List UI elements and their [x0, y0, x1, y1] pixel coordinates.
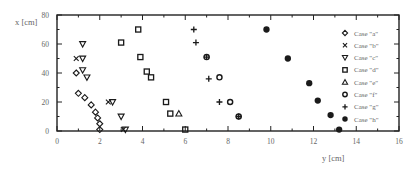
circle-filled-marker-icon: [342, 116, 347, 121]
x-tick-label: 4: [141, 137, 145, 146]
legend-label: Case "b": [354, 42, 379, 50]
legend-item: Case "h": [342, 116, 378, 124]
series-circle-filled: [263, 26, 342, 132]
x-tick-label: 0: [55, 137, 59, 146]
triangle-down-marker-icon: [80, 56, 86, 61]
legend-label: Case "f": [354, 91, 378, 99]
legend-item: Case "f": [343, 91, 378, 99]
circle-open-marker-icon: [217, 75, 222, 80]
plus-marker-icon: [193, 40, 199, 46]
series-triangle-up: [176, 111, 182, 116]
x-tick-label: 16: [395, 137, 403, 146]
diamond-marker-icon: [73, 70, 79, 76]
legend-label: Case "g": [354, 103, 379, 111]
circle-filled-marker-icon: [306, 80, 312, 86]
legend: Case "a"Case "b"Case "c"Case "d"Case "e"…: [342, 30, 378, 124]
x-tick-label: 2: [98, 137, 102, 146]
circle-open-marker-icon: [343, 92, 347, 96]
diamond-marker-icon: [75, 90, 81, 96]
y-tick-label: 80: [42, 11, 50, 20]
square-marker-icon: [168, 111, 173, 116]
square-marker-icon: [136, 27, 141, 32]
series-circle-open: [204, 55, 241, 120]
circle-filled-marker-icon: [315, 97, 321, 103]
circle-filled-marker-icon: [263, 26, 269, 32]
legend-item: Case "a": [342, 30, 378, 38]
circle-open-marker-icon: [228, 99, 233, 104]
triangle-down-marker-icon: [80, 42, 86, 47]
legend-item: Case "d": [343, 66, 379, 74]
legend-item: Case "g": [342, 103, 378, 111]
series-triangle-down: [80, 42, 129, 133]
plot-svg: 0246810121416020406080 x [cm] y [cm] Cas…: [0, 0, 420, 170]
series-plus: [191, 27, 242, 120]
x-marker-icon: [74, 56, 79, 61]
legend-item: Case "c": [342, 54, 378, 62]
scatter-chart: 0246810121416020406080 x [cm] y [cm] Cas…: [0, 0, 420, 170]
square-marker-icon: [119, 40, 124, 45]
diamond-marker-icon: [88, 102, 94, 108]
square-marker-icon: [149, 75, 154, 80]
legend-label: Case "e": [354, 79, 378, 87]
triangle-down-marker-icon: [80, 68, 86, 73]
circle-filled-marker-icon: [336, 126, 342, 132]
legend-item: Case "b": [343, 42, 379, 50]
legend-label: Case "c": [354, 54, 378, 62]
plus-marker-icon: [191, 27, 197, 33]
diamond-marker-icon: [342, 30, 347, 35]
square-marker-icon: [343, 68, 347, 72]
x-marker-icon: [343, 43, 347, 47]
x-tick-label: 6: [183, 137, 187, 146]
square-marker-icon: [144, 69, 149, 74]
legend-label: Case "h": [354, 116, 379, 124]
square-marker-icon: [163, 99, 168, 104]
legend-item: Case "e": [342, 79, 378, 87]
plus-marker-icon: [206, 76, 212, 82]
plus-marker-icon: [216, 99, 222, 105]
x-tick-label: 12: [310, 137, 318, 146]
triangle-down-marker-icon: [118, 114, 124, 119]
y-axis-label: x [cm]: [15, 17, 38, 27]
x-tick-label: 8: [226, 137, 230, 146]
legend-label: Case "d": [354, 66, 379, 74]
square-marker-icon: [138, 55, 143, 60]
circle-filled-marker-icon: [327, 112, 333, 118]
legend-label: Case "a": [354, 30, 378, 38]
triangle-down-marker-icon: [342, 56, 347, 61]
y-tick-label: 60: [42, 40, 50, 49]
triangle-down-marker-icon: [84, 75, 90, 80]
triangle-up-marker-icon: [176, 111, 182, 116]
x-tick-label: 10: [267, 137, 275, 146]
plus-marker-icon: [342, 104, 347, 109]
y-tick-label: 20: [42, 98, 50, 107]
x-axis-label: y [cm]: [322, 153, 345, 163]
y-tick-label: 0: [45, 127, 49, 136]
circle-filled-marker-icon: [285, 55, 291, 61]
diamond-marker-icon: [82, 95, 88, 101]
data-points: [73, 26, 342, 132]
y-tick-label: 40: [42, 69, 50, 78]
x-tick-label: 14: [353, 137, 361, 146]
triangle-up-marker-icon: [342, 80, 347, 85]
